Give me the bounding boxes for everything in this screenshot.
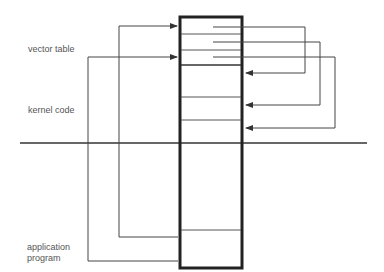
vector-table-label: vector table [28,44,75,55]
memory-diagram [0,0,384,272]
application-label-line2: program [27,253,61,264]
app-call-inner [119,26,178,237]
application-label-line1: application [27,242,70,253]
kernel-code-label: kernel code [28,105,75,116]
app-call-outer [88,57,178,261]
vector-pointer-3 [213,57,335,128]
